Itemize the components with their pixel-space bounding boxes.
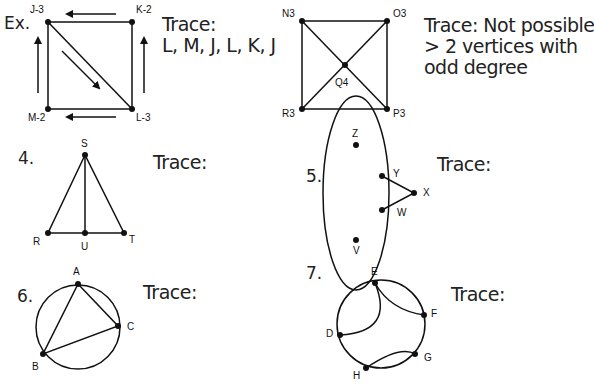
p3-trace-line3: odd degree xyxy=(424,57,527,78)
graph-6 xyxy=(36,284,120,369)
vertex-r xyxy=(299,106,305,112)
vertex-label-x: X xyxy=(423,187,430,198)
vertex-label-g: G xyxy=(424,352,432,363)
example-trace-answer: L, M, J, L, K, J xyxy=(162,35,276,56)
vertex-label-c: C xyxy=(127,321,134,332)
vertex-label-n: N3 xyxy=(282,8,295,19)
example-number: Ex. xyxy=(4,13,30,33)
vertex-label-d: D xyxy=(326,328,333,339)
p5-trace-label: Trace: xyxy=(437,154,491,175)
vertex-v xyxy=(353,237,359,243)
vertex-h xyxy=(363,365,369,371)
vertex-label-r: R3 xyxy=(282,108,295,119)
vertex-label-p: P3 xyxy=(393,108,405,119)
vertex-f xyxy=(421,312,427,318)
p6-trace-label: Trace: xyxy=(143,282,197,303)
vertex-label-u: U xyxy=(81,241,88,252)
p6-number: 6. xyxy=(17,286,33,306)
vertex-p xyxy=(384,106,390,112)
vertex-q xyxy=(342,62,348,68)
vertex-label-q: Q4 xyxy=(335,77,348,88)
p3-trace-line2: > 2 vertices with xyxy=(424,36,577,57)
p4-number: 4. xyxy=(18,148,34,168)
vertex-e xyxy=(372,280,378,286)
vertex-label-a: A xyxy=(73,266,80,277)
graph-4 xyxy=(48,155,124,233)
example-trace-label: Trace: xyxy=(162,14,216,35)
vertex-n xyxy=(299,18,305,24)
vertex-g xyxy=(412,351,418,357)
vertex-x xyxy=(411,190,417,196)
vertex-label-l: L-3 xyxy=(136,112,150,123)
vertex-label-r4: R xyxy=(33,236,40,247)
p3-trace-label: Trace: Not possible xyxy=(424,15,594,36)
vertex-s xyxy=(82,152,88,158)
graph-7 xyxy=(337,280,425,368)
vertex-label-y: Y xyxy=(393,168,400,179)
vertex-label-h: H xyxy=(353,370,360,381)
example-graph xyxy=(38,14,144,117)
vertex-o xyxy=(384,18,390,24)
vertex-k xyxy=(129,19,135,25)
vertex-label-s: S xyxy=(81,138,88,149)
vertex-label-z: Z xyxy=(352,128,358,139)
vertex-y xyxy=(379,173,385,179)
vertex-r4 xyxy=(45,230,51,236)
vertex-j xyxy=(45,19,51,25)
vertex-label-b: B xyxy=(32,361,39,372)
graph-5 xyxy=(323,96,414,290)
p7-number: 7. xyxy=(306,263,322,283)
vertex-w xyxy=(379,207,385,213)
p7-trace-label: Trace: xyxy=(451,284,505,305)
vertex-c xyxy=(115,323,121,329)
vertex-a xyxy=(75,281,81,287)
vertex-label-t: T xyxy=(129,234,135,245)
vertex-u xyxy=(82,230,88,236)
vertex-b xyxy=(40,351,46,357)
vertex-label-f: F xyxy=(431,308,437,319)
vertex-z xyxy=(353,142,359,148)
vertex-label-e: E xyxy=(371,266,378,277)
vertex-label-v: V xyxy=(353,245,360,256)
vertex-d xyxy=(337,332,343,338)
vertex-label-w: W xyxy=(397,207,406,218)
vertex-label-o: O3 xyxy=(393,8,406,19)
vertex-l xyxy=(129,106,135,112)
vertex-m xyxy=(45,106,51,112)
vertex-label-j: J-3 xyxy=(30,4,44,15)
vertex-label-k: K-2 xyxy=(136,4,152,15)
vertex-t xyxy=(121,230,127,236)
p4-trace-label: Trace: xyxy=(153,152,207,173)
p5-number: 5. xyxy=(306,166,322,186)
vertex-label-m: M-2 xyxy=(28,112,45,123)
